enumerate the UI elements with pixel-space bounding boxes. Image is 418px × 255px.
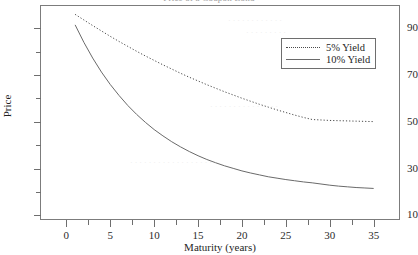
y-axis-tick — [34, 169, 41, 170]
x-axis-tick-label: 20 — [222, 229, 262, 241]
y-axis-tick-label: 30 — [390, 162, 418, 174]
x-axis-tick-label: 15 — [178, 229, 218, 241]
y-axis-tick — [34, 28, 41, 29]
legend-item-10-percent-yield: 10% Yield — [286, 53, 370, 65]
chart-figure: Price of a Coupon Bond · · · · · · · · ·… — [0, 0, 418, 255]
y-axis-tick-label: 50 — [390, 115, 418, 127]
y-axis-tick-label: 70 — [390, 68, 418, 80]
y-axis-tick — [34, 215, 41, 216]
x-axis-minor-tick — [352, 220, 353, 225]
x-axis-title: Maturity (years) — [40, 241, 400, 253]
x-axis-minor-tick — [308, 220, 309, 225]
x-axis-tick-label: 35 — [354, 229, 394, 241]
x-axis-tick-label: 5 — [90, 229, 130, 241]
x-axis-tick-label: 30 — [310, 229, 350, 241]
x-axis-tick-label: 0 — [46, 229, 86, 241]
x-axis-tick-label: 10 — [134, 229, 174, 241]
x-axis-tick — [198, 220, 199, 227]
legend-swatch-dotted-line — [286, 47, 320, 48]
x-axis-minor-tick — [176, 220, 177, 225]
x-axis-tick — [110, 220, 111, 227]
legend-swatch-solid-line — [286, 59, 320, 60]
y-axis-minor-tick — [36, 98, 41, 99]
chart-legend: 5% Yield 10% Yield — [281, 38, 376, 69]
y-axis-minor-tick — [36, 145, 41, 146]
y-axis-minor-tick — [36, 192, 41, 193]
x-axis-tick — [330, 220, 331, 227]
legend-item-5-percent-yield: 5% Yield — [286, 41, 370, 53]
x-axis-tick — [374, 220, 375, 227]
x-axis-minor-tick — [220, 220, 221, 225]
y-axis-title: Price — [1, 81, 13, 131]
x-axis-tick — [286, 220, 287, 227]
y-axis-minor-tick — [36, 52, 41, 53]
x-axis-tick-label: 25 — [266, 229, 306, 241]
x-axis-minor-tick — [132, 220, 133, 225]
y-axis-tick-label: 10 — [390, 208, 418, 220]
x-axis-tick — [66, 220, 67, 227]
y-axis-tick — [34, 75, 41, 76]
x-axis-tick — [154, 220, 155, 227]
legend-label: 5% Yield — [326, 42, 365, 53]
legend-label: 10% Yield — [326, 54, 370, 65]
x-axis-minor-tick — [88, 220, 89, 225]
y-axis-tick — [34, 122, 41, 123]
y-axis-tick-label: 90 — [390, 21, 418, 33]
x-axis-tick — [242, 220, 243, 227]
x-axis-minor-tick — [264, 220, 265, 225]
chart-title: Price of a Coupon Bond — [0, 0, 418, 3]
